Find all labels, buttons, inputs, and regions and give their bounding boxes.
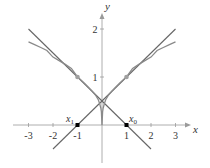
point-x0 <box>125 123 129 127</box>
x-axis-label: x <box>192 123 198 135</box>
x-tick-label: 1 <box>124 130 129 141</box>
point-x1 <box>76 123 80 127</box>
x-tick-label: -2 <box>49 130 57 141</box>
axes <box>13 16 188 163</box>
y-tick-label: 1 <box>93 72 98 83</box>
x-tick-label: -1 <box>73 130 81 141</box>
y-tick-label: 2 <box>93 24 98 35</box>
x-tick-label: 2 <box>149 130 154 141</box>
y-axis-label: y <box>104 0 110 12</box>
y-axis-arrow-icon <box>100 13 105 19</box>
x-tick-label: -3 <box>24 130 32 141</box>
tangent-point-left <box>75 75 80 80</box>
diagram-figure: -3 -2 -1 1 2 3 1 2 x y x1 x0 <box>0 0 210 168</box>
tangent-point-right <box>124 75 129 80</box>
label-x0: x0 <box>128 113 137 126</box>
x-axis-arrow-icon <box>185 123 191 128</box>
label-x1: x1 <box>65 113 74 126</box>
x-tick-label: 3 <box>173 130 178 141</box>
